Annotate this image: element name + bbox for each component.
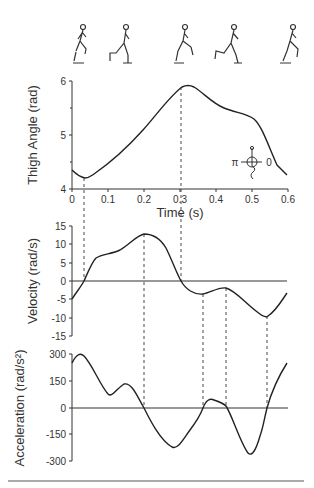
inset-label-zero: 0 <box>266 157 272 168</box>
y-tick-6: 6 <box>60 76 66 87</box>
y-tick-5: 5 <box>60 130 66 141</box>
x-tick-0.1: 0.1 <box>101 194 115 205</box>
thigh-angle-curve <box>72 86 287 179</box>
y-tick-4: 4 <box>60 184 66 195</box>
y-tick-neg10: -10 <box>52 313 67 324</box>
acceleration-curve <box>72 354 287 454</box>
runner-figures <box>73 25 298 64</box>
x-tick-0.2: 0.2 <box>137 194 151 205</box>
x-tick-0.3: 0.3 <box>173 194 187 205</box>
x-axis-label: Time (s) <box>156 205 203 220</box>
y-tick-15: 15 <box>55 221 67 232</box>
inset-label-pi: π <box>232 157 239 168</box>
thigh-angle-chart: 6 5 4 0 0.1 0.2 0.3 0.4 0.5 0.6 Time (s)… <box>25 76 295 220</box>
y-axis-label-acceleration: Acceleration (rad/s²) <box>12 349 27 466</box>
figure-canvas: 6 5 4 0 0.1 0.2 0.3 0.4 0.5 0.6 Time (s)… <box>0 0 314 488</box>
runner-icon <box>110 25 132 64</box>
phase-markers <box>84 87 267 408</box>
y-tick-neg300: -300 <box>46 456 66 467</box>
y-tick-10: 10 <box>55 239 67 250</box>
thigh-angle-convention-icon <box>241 146 262 179</box>
runner-icon <box>280 25 298 64</box>
y-tick-neg5: -5 <box>57 294 66 305</box>
y-tick-5: 5 <box>60 258 66 269</box>
velocity-curve <box>72 234 287 317</box>
y-tick-300: 300 <box>49 349 66 360</box>
acceleration-chart: 300 150 0 -150 -300 Acceleration (rad/s²… <box>12 349 288 467</box>
velocity-chart: 15 10 5 0 -5 -10 -15 Velocity (rad/s) <box>25 221 287 342</box>
y-tick-0: 0 <box>60 403 66 414</box>
x-tick-0.4: 0.4 <box>209 194 223 205</box>
runner-icon <box>174 25 193 64</box>
x-tick-0.6: 0.6 <box>281 194 295 205</box>
runner-icon <box>73 25 86 64</box>
runner-icon <box>215 25 242 64</box>
y-tick-neg15: -15 <box>52 331 67 342</box>
y-tick-150: 150 <box>49 376 66 387</box>
y-axis-label-velocity: Velocity (rad/s) <box>25 238 40 324</box>
x-tick-0.5: 0.5 <box>245 194 259 205</box>
y-tick-0: 0 <box>60 276 66 287</box>
x-tick-0: 0 <box>69 194 75 205</box>
y-tick-neg150: -150 <box>46 429 66 440</box>
y-axis-label-thigh-angle: Thigh Angle (rad) <box>25 85 40 185</box>
